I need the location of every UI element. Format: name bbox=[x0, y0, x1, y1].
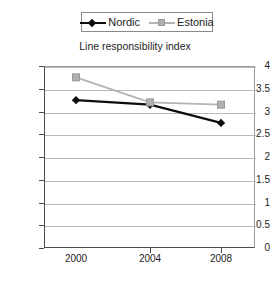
plot-area bbox=[44, 66, 255, 248]
y-axis-tick-label: 0.5 bbox=[234, 220, 270, 230]
y-axis-tick-mark bbox=[39, 66, 44, 67]
chart-legend: Nordic Estonia bbox=[81, 12, 213, 32]
y-axis-tick-mark bbox=[39, 248, 44, 249]
y-axis-tick-mark bbox=[39, 203, 44, 204]
y-axis-tick-label: 2.5 bbox=[234, 129, 270, 139]
line-chart: Nordic Estonia Line responsibility index… bbox=[0, 0, 270, 286]
gridline bbox=[45, 113, 256, 114]
y-axis-tick-mark bbox=[39, 112, 44, 113]
y-axis-tick-label: 0 bbox=[234, 243, 270, 253]
legend-swatch-nordic bbox=[80, 17, 106, 28]
square-marker-icon bbox=[158, 19, 165, 26]
legend-entry-estonia: Estonia bbox=[149, 17, 214, 28]
y-axis-tick-label: 3.5 bbox=[234, 84, 270, 94]
y-axis-tick-label: 1 bbox=[234, 198, 270, 208]
gridline bbox=[45, 226, 256, 227]
x-axis-tick-mark bbox=[150, 248, 151, 253]
x-axis-tick-label: 2008 bbox=[196, 253, 246, 264]
y-axis-tick-mark bbox=[39, 157, 44, 158]
gridline bbox=[45, 90, 256, 91]
x-axis-tick-label: 2004 bbox=[125, 253, 175, 264]
diamond-marker-icon bbox=[88, 18, 96, 26]
x-axis-tick-label: 2000 bbox=[51, 253, 101, 264]
legend-swatch-estonia bbox=[149, 17, 175, 28]
gridline bbox=[45, 67, 256, 68]
gridline bbox=[45, 135, 256, 136]
legend-label-estonia: Estonia bbox=[177, 17, 214, 28]
y-axis-tick-label: 2 bbox=[234, 152, 270, 162]
gridline bbox=[45, 181, 256, 182]
y-axis-tick-label: 1.5 bbox=[234, 175, 270, 185]
y-axis-tick-mark bbox=[39, 89, 44, 90]
legend-entry-nordic: Nordic bbox=[80, 17, 140, 28]
chart-title: Line responsibility index bbox=[0, 40, 270, 52]
legend-label-nordic: Nordic bbox=[108, 17, 140, 28]
y-axis-tick-mark bbox=[39, 180, 44, 181]
gridline bbox=[45, 158, 256, 159]
y-axis-tick-mark bbox=[39, 134, 44, 135]
y-axis-tick-label: 3 bbox=[234, 107, 270, 117]
x-axis-tick-mark bbox=[221, 248, 222, 253]
gridline bbox=[45, 204, 256, 205]
y-axis-tick-label: 4 bbox=[234, 61, 270, 71]
y-axis-tick-mark bbox=[39, 225, 44, 226]
